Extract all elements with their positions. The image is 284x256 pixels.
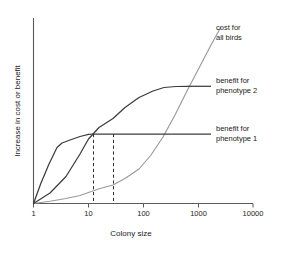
series-label-phenotype2-line1: benefit for (216, 76, 250, 85)
x-axis-title: Colony size (110, 229, 152, 238)
series-label-phenotype1-line1: benefit for (216, 124, 250, 133)
x-tick-label-10000: 10000 (243, 209, 264, 218)
x-tick-label-1: 1 (31, 209, 35, 218)
series-label-phenotype1-line2: phenotype 1 (216, 134, 257, 143)
x-tick-label-10: 10 (84, 209, 92, 218)
series-label-cost-line1: cost for (216, 23, 241, 32)
series-line-cost-for-all-birds (34, 27, 222, 204)
series-label-phenotype2-line2: phenotype 2 (216, 86, 257, 95)
y-axis-title: Increase in cost or benefit (13, 64, 22, 156)
chart-figure: 1 10 100 1000 10000 Colony size Increase… (0, 0, 284, 256)
series-label-cost-line2: all birds (216, 33, 242, 42)
series-line-benefit-phenotype-1 (34, 134, 94, 204)
x-tick-label-1000: 1000 (190, 209, 207, 218)
x-tick-label-100: 100 (137, 209, 150, 218)
